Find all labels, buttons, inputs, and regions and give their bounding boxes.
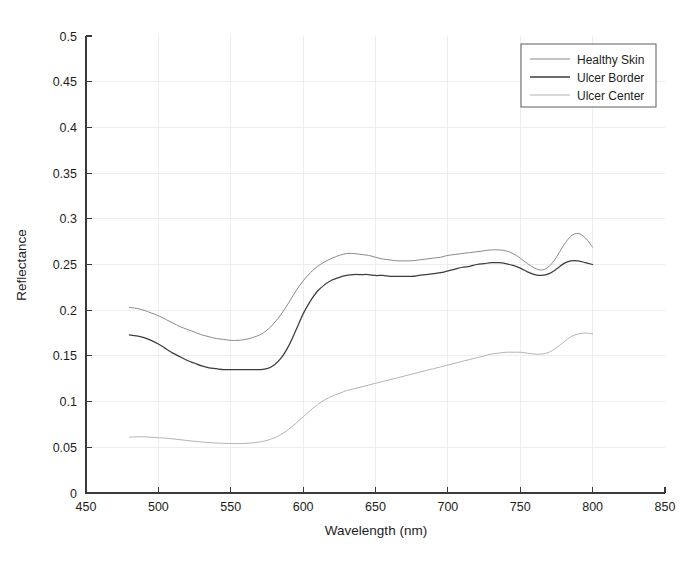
y-tick-label: 0.2 bbox=[60, 304, 77, 318]
x-axis-title: Wavelength (nm) bbox=[325, 523, 427, 538]
y-tick-label: 0.4 bbox=[60, 121, 77, 135]
y-tick-label: 0.5 bbox=[60, 30, 77, 44]
legend-label-3: Ulcer Center bbox=[577, 89, 644, 103]
figure-container: 450500550600650700750800850 00.050.10.15… bbox=[0, 0, 694, 566]
x-tick-label: 550 bbox=[220, 500, 241, 514]
y-tick-label: 0.05 bbox=[53, 441, 77, 455]
x-tick-label: 700 bbox=[437, 500, 458, 514]
y-tick-label: 0.1 bbox=[60, 395, 77, 409]
x-tick-label: 850 bbox=[655, 500, 676, 514]
y-tick-label: 0.35 bbox=[53, 167, 77, 181]
x-tick-label: 750 bbox=[510, 500, 531, 514]
x-tick-label: 500 bbox=[148, 500, 169, 514]
x-tick-label: 450 bbox=[76, 500, 97, 514]
y-tick-label: 0.25 bbox=[53, 258, 77, 272]
y-axis-title: Reflectance bbox=[14, 229, 29, 300]
y-tick-label: 0 bbox=[70, 487, 77, 501]
y-tick-label: 0.45 bbox=[53, 75, 77, 89]
y-tick-label: 0.15 bbox=[53, 349, 77, 363]
x-tick-label: 600 bbox=[293, 500, 314, 514]
x-tick-label: 650 bbox=[365, 500, 386, 514]
chart-legend[interactable]: Healthy SkinUlcer BorderUlcer Center bbox=[521, 44, 656, 107]
x-tick-label: 800 bbox=[582, 500, 603, 514]
x-axis-tick-labels: 450500550600650700750800850 bbox=[76, 500, 676, 514]
legend-label-1: Healthy Skin bbox=[577, 53, 644, 67]
y-tick-label: 0.3 bbox=[60, 212, 77, 226]
reflectance-spectra-chart: 450500550600650700750800850 00.050.10.15… bbox=[0, 0, 694, 566]
legend-label-2: Ulcer Border bbox=[577, 71, 644, 85]
